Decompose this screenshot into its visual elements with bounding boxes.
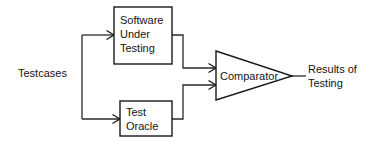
edge-software-under-testing-to-comparator (172, 35, 215, 68)
label-results-line2: Testing (308, 77, 343, 89)
label-results-line1: Results of (308, 63, 358, 75)
label-comparator: Comparator (220, 70, 278, 82)
diagram-canvas: Testcases Software Under Testing Test Or… (0, 0, 377, 146)
label-test-oracle-line2: Oracle (126, 120, 158, 132)
edge-test-oracle-to-comparator (172, 85, 215, 119)
label-software-under-testing-line2: Under (120, 28, 150, 40)
label-testcases: Testcases (18, 67, 67, 79)
diagram-svg: Testcases Software Under Testing Test Or… (0, 0, 377, 146)
label-software-under-testing-line3: Testing (120, 42, 155, 54)
label-software-under-testing-line1: Software (120, 14, 163, 26)
label-test-oracle-line1: Test (126, 106, 146, 118)
